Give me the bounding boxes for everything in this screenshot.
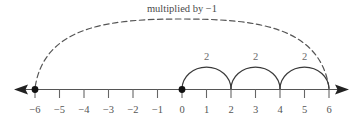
tick-label-0: 0	[179, 104, 184, 115]
multiplied-by-negative-one-arc	[35, 19, 329, 88]
tick-label--3: −3	[103, 104, 114, 115]
tick-label-3: 3	[253, 104, 258, 115]
number-line-figure: −6 −5 −4 −3 −2 −1 0 1 2 3 4 5 6 2 2 2 mu…	[0, 0, 363, 123]
hop-arc-0-to-2	[182, 67, 231, 89]
tick-label--1: −1	[152, 104, 163, 115]
tick-label-4: 4	[277, 104, 283, 115]
tick-label-6: 6	[326, 104, 331, 115]
tick-label-1: 1	[204, 104, 209, 115]
tick-label--5: −5	[54, 104, 65, 115]
hop-label-0-to-2: 2	[204, 51, 209, 62]
hop-arc-2-to-4	[231, 67, 280, 89]
hop-label-4-to-6: 2	[302, 51, 307, 62]
tick-label--4: −4	[78, 104, 90, 115]
figure-title: multiplied by −1	[147, 3, 217, 14]
point-minus-6	[32, 86, 39, 93]
hop-arc-4-to-6	[280, 67, 329, 89]
point-0	[179, 86, 186, 93]
tick-label--6: −6	[29, 104, 40, 115]
tick-label--2: −2	[127, 104, 138, 115]
tick-label-2: 2	[228, 104, 233, 115]
hop-label-2-to-4: 2	[253, 51, 258, 62]
tick-label-5: 5	[302, 104, 307, 115]
